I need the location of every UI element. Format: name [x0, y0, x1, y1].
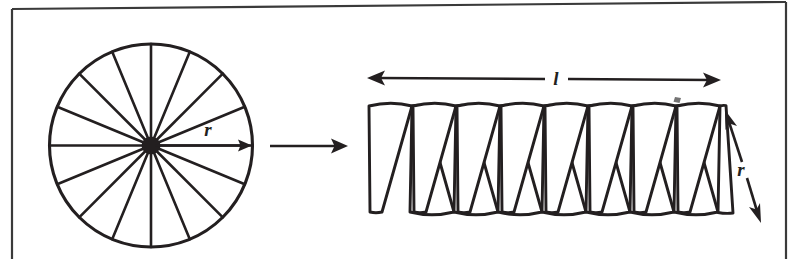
height-arrow-shaft-upper [729, 122, 742, 162]
height-label: r [737, 159, 745, 180]
radius-arrow [155, 140, 252, 152]
spoke-10 [79, 146, 151, 218]
height-arrow-shaft-lower [747, 178, 757, 211]
length-arrow-shaft-right [568, 79, 711, 80]
geometry-figure: r [0, 0, 793, 259]
length-arrow-shaft-left [377, 78, 545, 79]
sector-strip-group: l r [367, 68, 761, 223]
transformation-arrow-group [270, 139, 348, 154]
ink-smudge [674, 97, 682, 103]
spoke-2 [151, 74, 223, 146]
frame-top-border [12, 2, 786, 9]
radius-label-left: r [204, 119, 212, 140]
sectored-circle-group: r [50, 44, 253, 247]
length-dimension: l [367, 68, 721, 89]
strip-sector-1 [369, 103, 412, 213]
spoke-14 [151, 146, 223, 218]
spoke-6 [79, 74, 151, 146]
strip-sectors [369, 103, 733, 215]
figure-container: r [0, 0, 793, 259]
length-label: l [553, 68, 559, 89]
